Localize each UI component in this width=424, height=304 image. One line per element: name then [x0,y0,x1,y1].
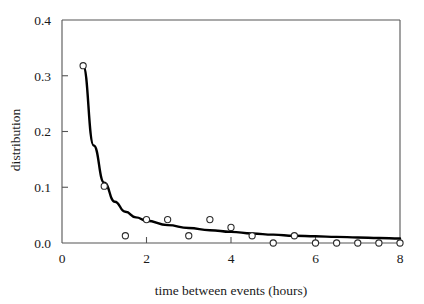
data-point-marker [376,240,382,246]
x-axis-title: time between events (hours) [155,283,308,298]
data-point-marker [143,216,149,222]
data-point-marker [355,240,361,246]
data-point-marker [101,183,107,189]
data-point-marker [334,240,340,246]
chart-canvas: 0.00.10.20.30.4 02468 time between event… [0,0,424,304]
y-tick-label: 0.2 [34,124,51,139]
data-point-marker [80,63,86,69]
y-axis-title: distribution [8,109,23,172]
x-tick-label: 6 [312,251,319,266]
x-tick-label: 4 [228,251,235,266]
data-point-marker [207,216,213,222]
data-point-marker [249,233,255,239]
y-tick-label: 0.1 [34,180,51,195]
x-tick-label: 2 [143,251,150,266]
data-point-marker [291,233,297,239]
data-point-marker [122,233,128,239]
y-tick-label: 0.3 [34,69,51,84]
x-tick-label: 0 [59,251,66,266]
data-point-marker [397,240,403,246]
x-tick-label: 8 [397,251,404,266]
y-tick-label: 0.0 [34,236,51,251]
data-point-marker [186,233,192,239]
data-point-marker [270,240,276,246]
data-point-marker [312,240,318,246]
y-tick-label: 0.4 [34,13,51,28]
chart-figure: 0.00.10.20.30.4 02468 time between event… [0,0,424,304]
data-point-marker [165,216,171,222]
data-point-marker [228,224,234,230]
